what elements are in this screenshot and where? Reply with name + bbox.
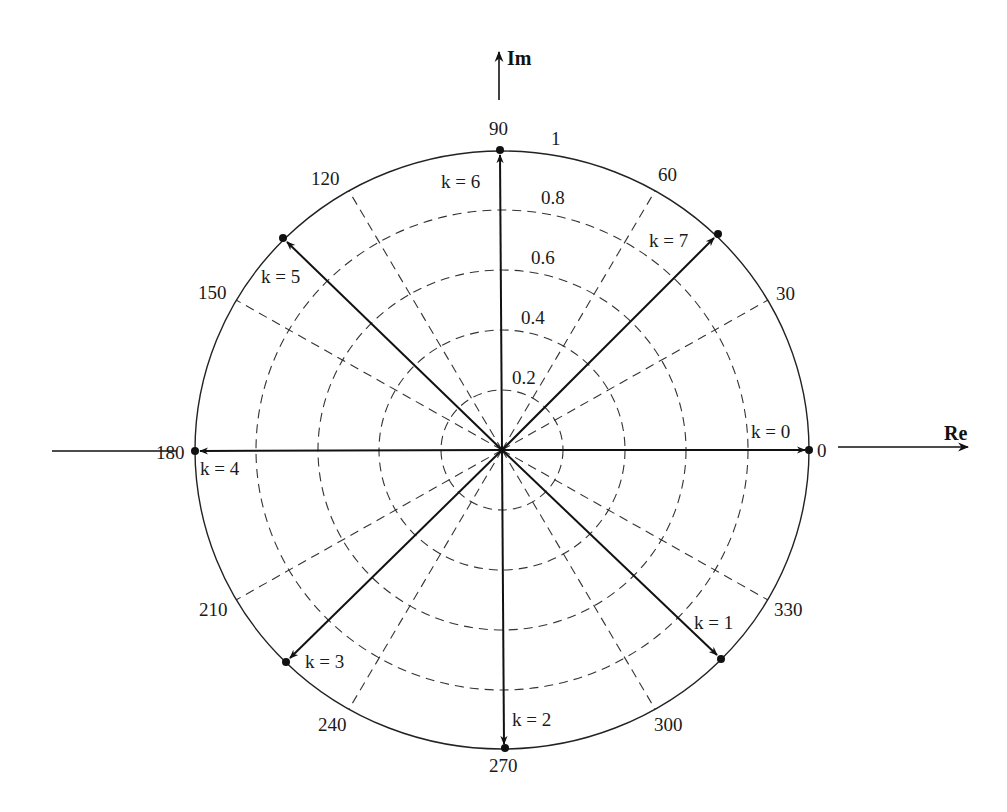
radial-label-1: 1 bbox=[551, 128, 561, 149]
point-k7 bbox=[714, 230, 722, 238]
angle-label-0: 0 bbox=[817, 440, 827, 461]
point-k1 bbox=[717, 655, 725, 663]
k-label-0: k = 0 bbox=[751, 421, 790, 442]
k-label-6: k = 6 bbox=[441, 171, 480, 192]
root-vectors bbox=[200, 155, 805, 744]
point-k6 bbox=[496, 146, 504, 154]
vector-k1 bbox=[502, 450, 717, 655]
vector-k4 bbox=[200, 450, 502, 451]
angle-label-300: 300 bbox=[654, 714, 683, 735]
point-k5 bbox=[279, 234, 287, 242]
angle-label-240: 240 bbox=[318, 714, 347, 735]
vector-k5 bbox=[287, 242, 502, 450]
vector-k2 bbox=[502, 450, 504, 744]
angle-label-150: 150 bbox=[198, 282, 227, 303]
angle-label-210: 210 bbox=[199, 599, 228, 620]
k-label-5: k = 5 bbox=[261, 266, 300, 287]
point-k0 bbox=[805, 446, 813, 454]
radial-label-0.8: 0.8 bbox=[541, 187, 565, 208]
angle-label-330: 330 bbox=[774, 599, 803, 620]
radial-label-0.6: 0.6 bbox=[531, 247, 555, 268]
angle-label-30: 30 bbox=[776, 283, 795, 304]
k-label-7: k = 7 bbox=[649, 230, 688, 251]
vector-k6 bbox=[500, 155, 502, 450]
vector-k7 bbox=[502, 238, 714, 450]
k-label-1: k = 1 bbox=[694, 612, 733, 633]
k-label-4: k = 4 bbox=[200, 458, 240, 479]
radial-label-0.4: 0.4 bbox=[521, 307, 545, 328]
point-k4 bbox=[191, 447, 199, 455]
k-label-3: k = 3 bbox=[305, 651, 344, 672]
point-k2 bbox=[501, 744, 509, 752]
angle-label-270: 270 bbox=[489, 755, 518, 776]
k-label-2: k = 2 bbox=[512, 709, 551, 730]
re-axis-label: Re bbox=[944, 422, 967, 444]
angle-label-180: 180 bbox=[156, 442, 185, 463]
polar-plot: Im Re 1 0.8 0.6 0.4 0.2 0 30 60 90 120 1… bbox=[0, 0, 1007, 812]
point-k3 bbox=[282, 658, 290, 666]
im-axis-label: Im bbox=[507, 47, 532, 69]
angle-label-60: 60 bbox=[658, 164, 677, 185]
angle-label-90: 90 bbox=[489, 118, 508, 139]
angle-label-120: 120 bbox=[311, 168, 340, 189]
radial-label-0.2: 0.2 bbox=[512, 367, 536, 388]
